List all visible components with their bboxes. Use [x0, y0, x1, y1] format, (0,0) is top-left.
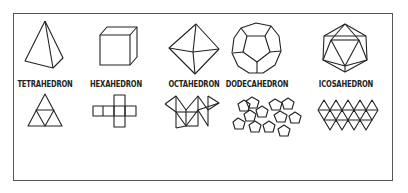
label-icosahedron: ICOSAHEDRON [312, 80, 380, 89]
hexahedron-icon [100, 27, 137, 65]
hexahedron-net-icon [93, 95, 136, 127]
dodecahedron-icon [232, 23, 281, 73]
icosahedron-net-icon [318, 100, 378, 130]
tetrahedron-net-icon [28, 94, 62, 126]
dodecahedron-net-icon [233, 97, 301, 136]
label-hexahedron: HEXAHEDRON [82, 80, 150, 89]
octahedron-net-icon [165, 96, 219, 128]
label-octahedron: OCTAHEDRON [160, 80, 228, 89]
icosahedron-icon [323, 24, 367, 72]
label-dodecahedron: DODECAHEDRON [223, 80, 291, 89]
label-tetrahedron: TETRAHEDRON [11, 80, 79, 89]
tetrahedron-icon [25, 21, 63, 68]
octahedron-icon [169, 24, 219, 74]
solids-diagram [0, 0, 408, 193]
